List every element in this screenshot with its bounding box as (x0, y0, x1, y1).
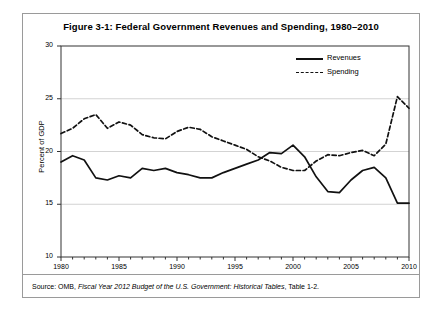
legend-item-spending: Spending (296, 66, 388, 80)
legend-item-revenues: Revenues (296, 52, 388, 66)
x-tick-label: 1985 (102, 263, 136, 270)
source-note: Source: OMB, Fiscal Year 2012 Budget of … (32, 283, 319, 290)
figure-container: Figure 3-1: Federal Government Revenues … (22, 13, 420, 298)
source-title: Fiscal Year 2012 Budget of the U.S. Gove… (78, 283, 285, 290)
x-tick-label: 2005 (334, 263, 368, 270)
y-tick-label: 25 (31, 94, 53, 101)
series-line-spending (61, 97, 409, 171)
source-divider (23, 274, 419, 275)
y-axis-title: Percent of GDP (37, 107, 46, 187)
x-tick-label: 1980 (44, 263, 78, 270)
legend-label-revenues: Revenues (327, 53, 361, 62)
x-tick-label: 1995 (218, 263, 252, 270)
y-tick-label: 15 (31, 199, 53, 206)
x-tick-label: 2010 (392, 263, 426, 270)
x-tick-label: 2000 (276, 263, 310, 270)
y-tick-label: 10 (31, 252, 53, 259)
y-axis-ticks (57, 46, 61, 257)
y-tick-label: 30 (31, 41, 53, 48)
legend-swatch-solid-icon (296, 58, 323, 60)
x-axis-ticks (61, 257, 409, 261)
legend-swatch-dashed-icon (296, 72, 323, 73)
source-suffix: , Table 1-2. (285, 283, 320, 290)
series-line-revenues (61, 145, 409, 203)
legend-label-spending: Spending (327, 67, 359, 76)
source-prefix: Source: OMB, (32, 283, 78, 290)
chart-legend: Revenues Spending (296, 52, 388, 82)
x-tick-label: 1990 (160, 263, 194, 270)
